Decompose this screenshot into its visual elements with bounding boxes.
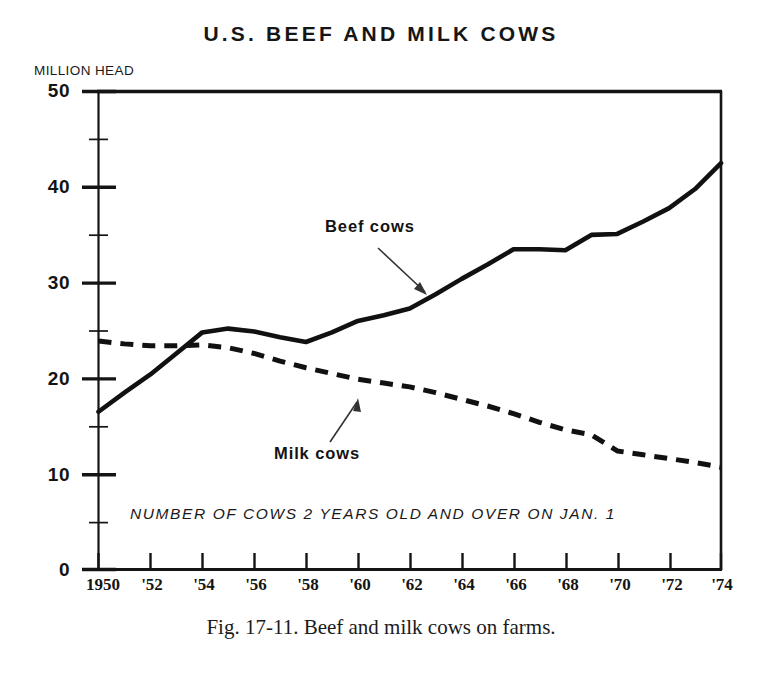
x-tick-label-1956: '56 (245, 575, 267, 595)
in-plot-note: NUMBER OF COWS 2 YEARS OLD AND OVER ON J… (130, 505, 616, 523)
y-tick-label-50: 50 (26, 80, 70, 102)
y-tick-label-20: 20 (26, 368, 70, 390)
series-label-beef-cows: Beef cows (325, 217, 415, 236)
x-tick-label-1960: '60 (349, 575, 371, 595)
x-tick-label-1974: '74 (711, 575, 733, 595)
x-tick-label-1972: '72 (661, 575, 683, 595)
figure-caption: Fig. 17-11. Beef and milk cows on farms. (0, 615, 762, 640)
beef-cows-annotation-arrow (378, 248, 427, 295)
x-tick-label-1964: '64 (453, 575, 475, 595)
x-tick-label-1952: '52 (141, 575, 163, 595)
y-tick-label-10: 10 (26, 464, 70, 486)
x-tick-label-1958: '58 (297, 575, 319, 595)
series-line-beef-cows (99, 163, 722, 412)
x-tick-label-1954: '54 (193, 575, 215, 595)
x-tick-label-1962: '62 (401, 575, 423, 595)
x-axis-ticks (99, 553, 722, 570)
x-tick-label-1966: '66 (505, 575, 527, 595)
axis-frame (97, 91, 722, 570)
y-tick-label-30: 30 (26, 272, 70, 294)
series-line-milk-cows (99, 341, 722, 467)
milk-cows-annotation-arrow (330, 398, 361, 442)
y-tick-label-40: 40 (26, 176, 70, 198)
y-tick-label-0: 0 (26, 559, 70, 581)
series-label-milk-cows: Milk cows (274, 444, 360, 463)
figure-container: U.S. BEEF AND MILK COWS MILLION HEAD (0, 0, 762, 677)
x-tick-label-1970: '70 (609, 575, 631, 595)
x-tick-label-1968: '68 (557, 575, 579, 595)
x-tick-label-1950: 1950 (86, 575, 120, 595)
